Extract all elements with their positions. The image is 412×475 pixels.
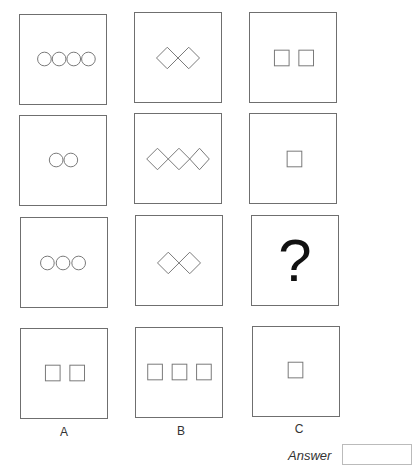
- circles-icon: [21, 218, 107, 307]
- option-c-label: C: [289, 422, 309, 436]
- option-a[interactable]: [20, 328, 108, 419]
- squares-icon: [21, 329, 107, 418]
- grid-cell-r2-c1: [19, 115, 107, 206]
- answer-input[interactable]: [342, 444, 412, 465]
- grid-cell-r1-c3: [249, 12, 337, 103]
- circles-icon: [20, 15, 106, 104]
- grid-cell-r3-c1: [20, 217, 108, 308]
- square-icon: [250, 114, 336, 203]
- grid-cell-r2-c2: [134, 113, 222, 204]
- grid-cell-r3-c2: [135, 215, 223, 306]
- grid-cell-r2-c3: [249, 113, 337, 204]
- option-c[interactable]: [252, 326, 340, 417]
- option-b[interactable]: [135, 327, 223, 418]
- answer-label: Answer: [288, 448, 331, 463]
- grid-cell-r3-c3-missing: ?: [251, 215, 339, 306]
- grid-cell-r1-c1: [19, 14, 107, 105]
- question-mark: ?: [252, 216, 338, 305]
- squares-icon: [136, 328, 222, 417]
- grid-cell-r1-c2: [134, 12, 222, 103]
- diamonds-icon: [135, 114, 221, 203]
- circles-icon: [20, 116, 106, 205]
- squares-icon: [250, 13, 336, 102]
- option-b-label: B: [171, 424, 191, 438]
- square-icon: [253, 327, 339, 416]
- option-a-label: A: [54, 425, 74, 439]
- diamonds-icon: [136, 216, 222, 305]
- diamonds-icon: [135, 13, 221, 102]
